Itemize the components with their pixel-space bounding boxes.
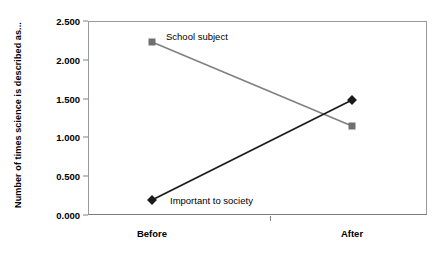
x-axis-label-before: Before	[137, 228, 167, 239]
series-label-important-to-society: Important to society	[170, 195, 253, 206]
series-line-important-to-society	[152, 100, 352, 200]
data-point-school-subject-after	[349, 123, 356, 130]
series-label-school-subject: School subject	[166, 31, 228, 42]
series-line-school-subject	[152, 42, 352, 126]
line-chart: Number of times science is described as.…	[0, 0, 444, 255]
data-point-school-subject-before	[149, 39, 156, 46]
x-tick-mark-center	[270, 216, 271, 221]
x-axis-label-after: After	[341, 228, 363, 239]
